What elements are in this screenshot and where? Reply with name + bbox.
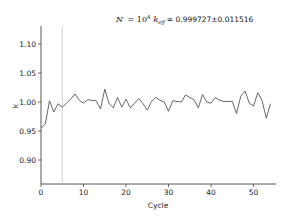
y-tick-label: 1.00 xyxy=(19,98,36,107)
y-tick-label: 1.05 xyxy=(19,69,36,78)
title-n-value: 10 xyxy=(137,15,147,24)
x-tick-label: 0 xyxy=(39,188,44,197)
y-axis-ticks: 0.900.951.001.051.10 xyxy=(19,40,41,165)
svg-text:N = 104keff= 0.999727±0.011516: N = 104keff= 0.999727±0.011516 xyxy=(115,14,254,26)
x-tick-label: 10 xyxy=(79,188,89,197)
y-tick-label: 1.10 xyxy=(19,40,36,49)
title-n-label: N xyxy=(115,15,124,24)
x-tick-label: 50 xyxy=(249,188,259,197)
x-axis-ticks: 01020304050 xyxy=(39,184,259,197)
title-n-exp: 4 xyxy=(147,14,151,20)
y-tick-label: 0.95 xyxy=(19,127,36,136)
k-series-line xyxy=(41,89,271,128)
chart-title: N = 104keff= 0.999727±0.011516 xyxy=(115,14,254,26)
x-axis-title: Cycle xyxy=(148,201,169,210)
x-tick-label: 20 xyxy=(121,188,131,197)
chart: N = 104keff= 0.999727±0.011516 0.900.951… xyxy=(0,0,289,216)
x-tick-label: 40 xyxy=(206,188,216,197)
y-axis-title: k xyxy=(11,103,20,108)
title-value: = 0.999727±0.011516 xyxy=(167,15,254,24)
y-tick-label: 0.90 xyxy=(19,156,36,165)
title-k-sub: eff xyxy=(158,19,166,26)
x-tick-label: 30 xyxy=(164,188,174,197)
